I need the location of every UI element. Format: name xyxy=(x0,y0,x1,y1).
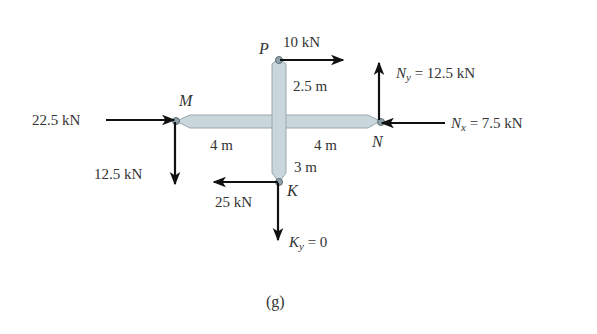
dim-P-center: 2.5 m xyxy=(293,79,327,94)
dim-center-K: 3 m xyxy=(294,160,317,175)
figure-caption: (g) xyxy=(266,294,285,310)
force-M-horizontal-label: 22.5 kN xyxy=(32,113,80,128)
force-Nx-label: Nx = 7.5 kN xyxy=(451,116,523,133)
label-K: K xyxy=(287,183,298,199)
dim-center-N: 4 m xyxy=(314,138,337,153)
force-Ny-label: Ny = 12.5 kN xyxy=(396,66,475,83)
label-P: P xyxy=(259,41,269,57)
force-K-horizontal-label: 25 kN xyxy=(215,195,252,210)
force-M-vertical-label: 12.5 kN xyxy=(94,167,142,182)
force-P-label: 10 kN xyxy=(283,35,320,50)
force-Ky-label: Ky = 0 xyxy=(289,235,327,252)
cross-member xyxy=(176,60,380,182)
label-N: N xyxy=(372,134,383,150)
dim-M-center: 4 m xyxy=(210,138,233,153)
label-M: M xyxy=(179,93,192,109)
